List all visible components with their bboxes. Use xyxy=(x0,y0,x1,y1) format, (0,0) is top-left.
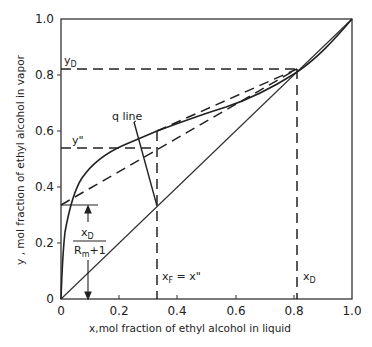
x-axis-title: x,mol fraction of ethyl alcohol in liqui… xyxy=(89,322,291,334)
y-tick-label: 1.0 xyxy=(35,12,54,26)
xd-label: xD xyxy=(303,270,316,285)
q-line xyxy=(134,122,157,206)
min-reflux-operating-line xyxy=(61,69,297,205)
y-tick-label: 0.4 xyxy=(35,180,54,194)
svg-text:xD: xD xyxy=(81,226,94,241)
y-tick-label: 0.8 xyxy=(35,68,54,82)
x-tick-label: 1.0 xyxy=(342,304,361,318)
x-tick-label: 0.8 xyxy=(284,304,303,318)
xf-label: xF = x" xyxy=(162,270,201,285)
diagonal-line xyxy=(61,19,352,299)
ydoubleprime-label: y" xyxy=(72,134,84,147)
y-axis-title: y , mol fraction of ethyl alcohol in vap… xyxy=(14,54,26,264)
x-tick-label: 0.4 xyxy=(167,304,186,318)
frac-den-sub: m xyxy=(82,250,90,259)
x-tick-labels: 0 0.2 0.4 0.6 0.8 1.0 xyxy=(57,304,361,318)
x-tick-label: 0.2 xyxy=(109,304,128,318)
q-line-label: q line xyxy=(112,110,143,123)
frac-num-sub: D xyxy=(88,232,94,241)
frac-den-rest: +1 xyxy=(89,244,105,257)
y-tick-label: 0 xyxy=(46,292,54,306)
x-tick-label: 0 xyxy=(57,304,65,318)
y-tick-label: 0.2 xyxy=(35,236,54,250)
x-tick-label: 0.6 xyxy=(226,304,245,318)
intercept-fraction-label: xD Rm+1 xyxy=(73,226,106,259)
svg-text:Rm+1: Rm+1 xyxy=(74,244,106,259)
y-tick-labels: 0 0.2 0.4 0.6 0.8 1.0 xyxy=(35,12,54,306)
y-tick-label: 0.6 xyxy=(35,124,54,138)
pinch-operating-line xyxy=(157,69,297,131)
yd-label: yD xyxy=(64,54,77,69)
mccabe-thiele-diagram: 0 0.2 0.4 0.6 0.8 1.0 0 0.2 0.4 0.6 0.8 … xyxy=(0,0,372,347)
